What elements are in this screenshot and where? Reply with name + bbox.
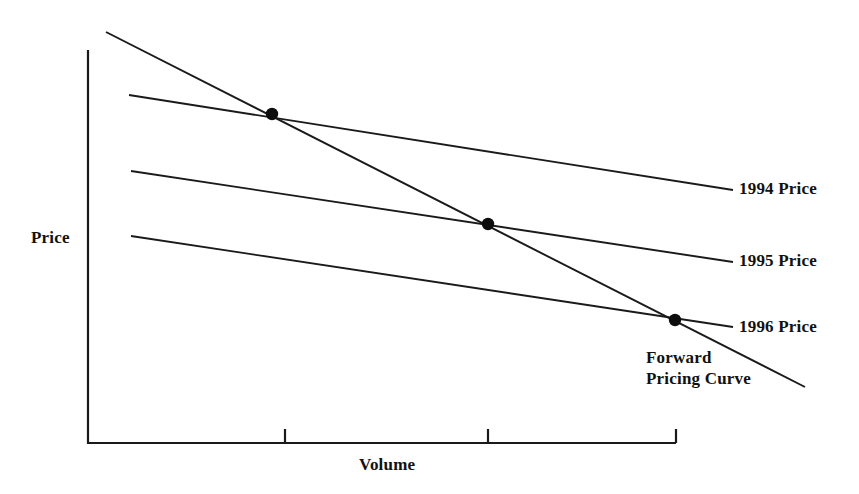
series-lines [106,32,805,387]
y-axis-label: Price [31,228,70,249]
x-axis-label: Volume [359,455,415,476]
series-label-1996-price: 1996 Price [739,317,817,338]
series-label-forward-pricing-curve: Forward Pricing Curve [646,348,751,389]
forward-label-line-2: Pricing Curve [646,369,751,390]
forward-label-line-1: Forward [646,348,712,367]
line-forward-pricing-curve [106,32,805,387]
line-1996-price [131,236,733,327]
axis-frame [88,50,676,443]
line-1994-price [129,95,733,190]
series-label-1995-price: 1995 Price [739,251,817,272]
intersection-dot-1996 [669,314,681,326]
axis-lines [88,50,676,443]
series-label-1994-price: 1994 Price [739,179,817,200]
chart-canvas [0,0,859,494]
forward-pricing-curve-figure: 1994 Price 1995 Price 1996 Price Forward… [0,0,859,494]
intersection-dot-1995 [482,218,494,230]
line-1995-price [131,171,733,262]
intersection-dot-1994 [266,108,278,120]
